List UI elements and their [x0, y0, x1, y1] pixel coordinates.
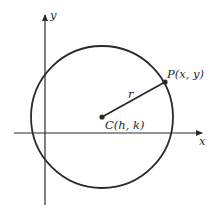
center-label: C(h, k) — [105, 118, 144, 132]
radius-segment — [102, 82, 165, 117]
center-point — [99, 114, 104, 119]
point-label: P(x, y) — [166, 67, 204, 81]
circle-diagram: y x P(x, y) r C(h, k) — [0, 0, 217, 217]
x-axis-label: x — [199, 134, 206, 148]
y-axis-label: y — [49, 8, 57, 22]
